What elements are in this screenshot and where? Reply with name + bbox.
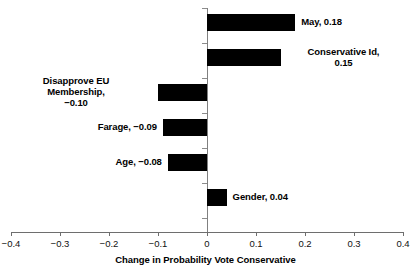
bar-farage: [163, 119, 207, 136]
bar-label-may: May, 0.18: [301, 16, 409, 27]
bar-label-conservative-id: Conservative Id, 0.15: [283, 46, 405, 68]
x-axis-tick-label: −0.3: [40, 238, 80, 249]
x-axis-tick: [305, 232, 306, 236]
x-axis-tick: [207, 232, 208, 236]
category-tick: [202, 43, 207, 44]
bar-chart: May, 0.18 Conservative Id, 0.15 Disappro…: [0, 0, 411, 268]
x-axis-tick-label: 0.2: [285, 238, 325, 249]
plot-area: May, 0.18 Conservative Id, 0.15 Disappro…: [0, 0, 411, 232]
x-axis-tick-label: 0.1: [236, 238, 276, 249]
category-tick: [202, 8, 207, 9]
x-axis-title: Change in Probability Vote Conservative: [0, 254, 411, 265]
x-axis-tick: [403, 232, 404, 236]
bar-may: [207, 14, 295, 31]
x-axis-tick: [256, 232, 257, 236]
bar-label-farage: Farage, −0.09: [0, 121, 157, 132]
bar-conservative-id: [207, 49, 281, 66]
category-tick: [202, 218, 207, 219]
bar-label-age: Age, −0.08: [0, 156, 162, 167]
x-axis-tick-label: −0.2: [89, 238, 129, 249]
bar-gender: [207, 189, 227, 206]
x-axis-tick: [354, 232, 355, 236]
bar-disapprove-eu-membership: [158, 84, 207, 101]
category-tick: [202, 113, 207, 114]
bar-label-gender: Gender, 0.04: [233, 191, 409, 202]
x-axis: Change in Probability Vote Conservative …: [0, 232, 411, 268]
x-axis-tick: [11, 232, 12, 236]
category-tick: [202, 78, 207, 79]
x-axis-tick-label: −0.1: [138, 238, 178, 249]
x-axis-tick-label: 0.3: [334, 238, 374, 249]
x-axis-tick-label: 0: [187, 238, 227, 249]
x-axis-tick: [60, 232, 61, 236]
x-axis-tick-label: 0.4: [383, 238, 411, 249]
x-axis-tick: [158, 232, 159, 236]
x-axis-tick-label: −0.4: [0, 238, 31, 249]
category-tick: [202, 183, 207, 184]
bar-age: [168, 154, 207, 171]
x-axis-tick: [109, 232, 110, 236]
category-tick: [202, 148, 207, 149]
bar-label-disapprove-eu-membership: Disapprove EU Membership, −0.10: [0, 75, 152, 108]
